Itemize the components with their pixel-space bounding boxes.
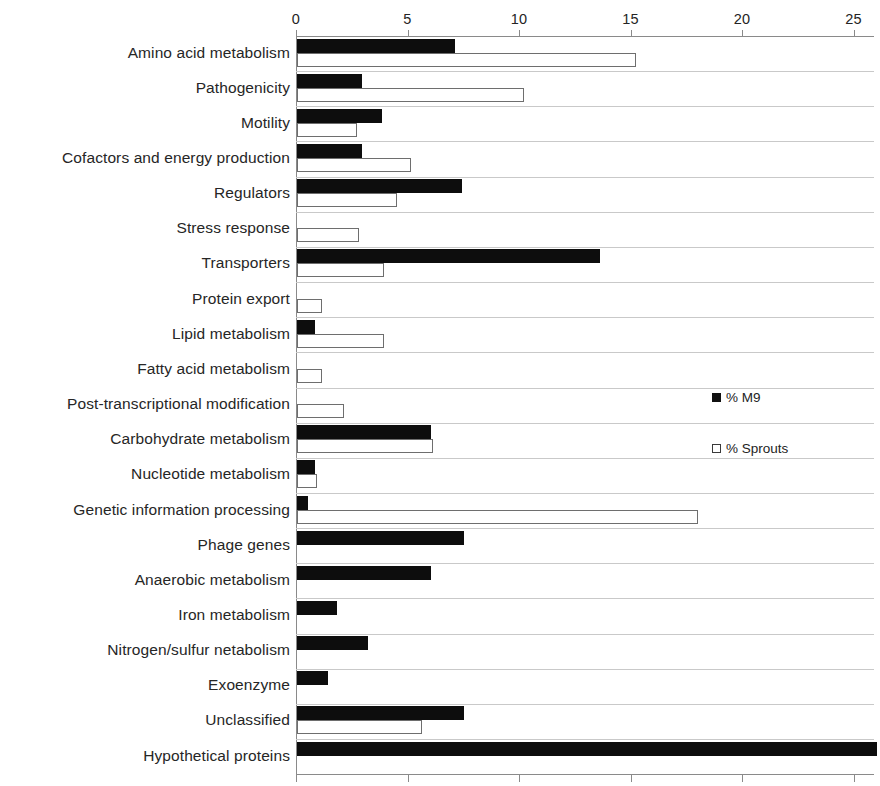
bar-m9 xyxy=(297,109,382,123)
category-label: Genetic information processing xyxy=(73,501,290,519)
chart-row: Lipid metabolism xyxy=(0,317,880,352)
chart-row: Exoenzyme xyxy=(0,669,880,704)
chart-row: Phage genes xyxy=(0,528,880,563)
category-label: Pathogenicity xyxy=(196,79,290,97)
x-tick-bottom-0 xyxy=(296,774,297,782)
chart-row: Amino acid metabolism xyxy=(0,36,880,71)
category-label: Phage genes xyxy=(198,536,290,554)
chart-row: Iron metabolism xyxy=(0,598,880,633)
bar-m9 xyxy=(297,742,877,756)
chart-row: Transporters xyxy=(0,247,880,282)
legend-label-sprouts: % Sprouts xyxy=(726,441,788,456)
chart-row: Cofactors and energy production xyxy=(0,141,880,176)
bar-m9 xyxy=(297,671,328,685)
bar-sprouts xyxy=(297,369,322,383)
bar-sprouts xyxy=(297,123,357,137)
category-label: Fatty acid metabolism xyxy=(137,360,290,378)
category-label: Post-transcriptional modification xyxy=(67,395,290,413)
chart-legend: % M9 % Sprouts xyxy=(712,390,788,492)
bar-sprouts xyxy=(297,510,698,524)
bar-sprouts xyxy=(297,474,317,488)
x-tick-bottom-5 xyxy=(408,774,409,782)
category-label: Protein export xyxy=(192,290,290,308)
category-label: Lipid metabolism xyxy=(172,325,290,343)
category-label: Nitrogen/sulfur netabolism xyxy=(107,641,290,659)
legend-item-sprouts: % Sprouts xyxy=(712,441,788,456)
category-label: Amino acid metabolism xyxy=(128,44,290,62)
chart-row: Stress response xyxy=(0,212,880,247)
bar-sprouts xyxy=(297,228,359,242)
bar-sprouts xyxy=(297,404,344,418)
bar-sprouts xyxy=(297,263,384,277)
bar-m9 xyxy=(297,320,315,334)
bar-sprouts xyxy=(297,88,524,102)
category-label: Anaerobic metabolism xyxy=(135,571,290,589)
chart-row: Unclassified xyxy=(0,704,880,739)
category-label: Unclassified xyxy=(205,711,290,729)
category-label: Exoenzyme xyxy=(208,676,290,694)
bar-sprouts xyxy=(297,299,322,313)
bar-m9 xyxy=(297,531,464,545)
x-tick-label-20: 20 xyxy=(734,11,751,27)
bar-m9 xyxy=(297,496,308,510)
category-label: Iron metabolism xyxy=(178,606,290,624)
bar-m9 xyxy=(297,179,462,193)
category-label: Motility xyxy=(241,114,290,132)
open-square-icon xyxy=(712,444,721,453)
chart-row: Hypothetical proteins xyxy=(0,739,880,774)
x-tick-bottom-20 xyxy=(742,774,743,782)
chart-row: Protein export xyxy=(0,282,880,317)
bar-m9 xyxy=(297,601,337,615)
chart-row: Fatty acid metabolism xyxy=(0,352,880,387)
bar-sprouts xyxy=(297,193,397,207)
bar-m9 xyxy=(297,74,362,88)
category-label: Nucleotide metabolism xyxy=(131,465,290,483)
filled-square-icon xyxy=(712,393,721,402)
x-tick-label-5: 5 xyxy=(403,11,411,27)
chart-row: Pathogenicity xyxy=(0,71,880,106)
bar-chart: 0510152025 Amino acid metabolismPathogen… xyxy=(0,0,880,786)
bar-sprouts xyxy=(297,334,384,348)
bar-m9 xyxy=(297,425,431,439)
chart-row: Regulators xyxy=(0,177,880,212)
category-label: Carbohydrate metabolism xyxy=(110,430,290,448)
bar-m9 xyxy=(297,249,600,263)
category-label: Regulators xyxy=(214,184,290,202)
x-axis-bottom-line xyxy=(296,774,874,775)
chart-row: Anaerobic metabolism xyxy=(0,563,880,598)
x-tick-bottom-15 xyxy=(631,774,632,782)
category-label: Hypothetical proteins xyxy=(143,747,290,765)
bar-m9 xyxy=(297,566,431,580)
bar-sprouts xyxy=(297,439,433,453)
x-tick-label-0: 0 xyxy=(292,11,300,27)
legend-item-m9: % M9 xyxy=(712,390,788,405)
legend-label-m9: % M9 xyxy=(726,390,761,405)
category-label: Transporters xyxy=(202,254,291,272)
x-tick-label-15: 15 xyxy=(622,11,639,27)
bar-sprouts xyxy=(297,53,636,67)
bar-sprouts xyxy=(297,158,411,172)
x-tick-label-25: 25 xyxy=(845,11,862,27)
x-tick-bottom-10 xyxy=(519,774,520,782)
chart-row: Nitrogen/sulfur netabolism xyxy=(0,634,880,669)
bar-m9 xyxy=(297,706,464,720)
bar-m9 xyxy=(297,460,315,474)
category-label: Stress response xyxy=(177,219,291,237)
bar-sprouts xyxy=(297,720,422,734)
bar-m9 xyxy=(297,144,362,158)
x-tick-label-10: 10 xyxy=(511,11,528,27)
chart-row: Genetic information processing xyxy=(0,493,880,528)
bar-m9 xyxy=(297,636,368,650)
bar-m9 xyxy=(297,39,455,53)
chart-row: Motility xyxy=(0,106,880,141)
category-label: Cofactors and energy production xyxy=(62,149,290,167)
x-tick-bottom-25 xyxy=(854,774,855,782)
